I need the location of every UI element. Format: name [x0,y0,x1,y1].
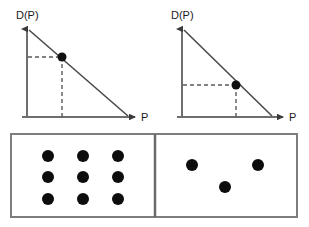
right-chart-y-axis-label: D(P) [171,9,194,21]
chart-left: D(P) P [16,9,148,123]
dot [252,159,264,171]
dot [112,193,124,205]
dot-boxes [11,134,297,217]
left-chart-demand-curve [29,30,128,116]
dot [77,193,89,205]
right-chart-equilibrium-point [232,81,241,90]
dot [186,159,198,171]
dot [42,150,54,162]
dot [112,171,124,183]
dot [77,150,89,162]
dot [112,150,124,162]
right-chart-x-axis-label: P [289,111,296,123]
dot [77,171,89,183]
left-chart-equilibrium-point [58,53,67,62]
dot [219,181,231,193]
left-chart-y-axis-label: D(P) [16,9,39,21]
chart-right: D(P) P [171,9,296,123]
left-chart-x-axis-label: P [141,111,148,123]
dot [42,193,54,205]
right-chart-demand-curve [184,30,272,116]
figure-svg: D(P) P D(P) P [0,0,309,227]
dot [42,171,54,183]
figure-root: D(P) P D(P) P [0,0,309,227]
